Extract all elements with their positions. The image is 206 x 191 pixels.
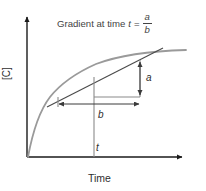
title-equals: = <box>134 19 140 29</box>
x-axis-label: Time <box>88 173 111 184</box>
gradient-fraction: a b <box>143 12 152 34</box>
rise-label-a: a <box>146 73 152 83</box>
figure-title: Gradient at time t = a b <box>57 13 152 35</box>
fraction-denominator: b <box>143 24 152 35</box>
y-axis-label: [C] <box>2 67 12 80</box>
time-label-t: t <box>96 143 99 153</box>
fraction-numerator: a <box>143 12 152 23</box>
gradient-tangent-figure: Gradient at time t = a b [C] Time a b t <box>0 0 206 191</box>
title-prefix: Gradient at time <box>57 19 125 29</box>
title-variable-t: t <box>127 19 132 29</box>
run-label-b: b <box>98 110 104 120</box>
